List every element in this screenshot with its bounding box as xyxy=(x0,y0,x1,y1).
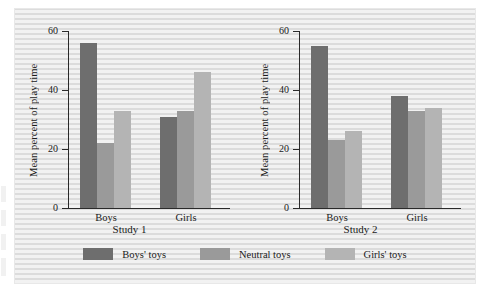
y-tick-60: 60 xyxy=(293,31,299,32)
scan-artifact xyxy=(1,186,6,202)
legend-item-boys-toys: Boys' toys xyxy=(83,248,166,260)
legend-item-girls-toys: Girls' toys xyxy=(325,248,407,260)
bar-group-boys xyxy=(80,31,131,208)
bar-girls-toys xyxy=(194,72,211,208)
y-tick-label-20: 20 xyxy=(279,144,289,154)
bar-girls-toys xyxy=(345,131,362,208)
bar-group-girls xyxy=(391,31,442,208)
y-tick-0: 0 xyxy=(62,208,68,209)
x-tick-label-girls: Girls xyxy=(176,212,197,223)
x-tick-label-boys: Boys xyxy=(95,212,117,223)
y-tick-20: 20 xyxy=(62,149,68,150)
bar-girls-toys xyxy=(425,108,442,208)
bar-boys-toys xyxy=(391,96,408,208)
y-tick-40: 40 xyxy=(293,90,299,91)
chart-legend: Boys' toys Neutral toys Girls' toys xyxy=(14,248,476,260)
legend-label-boys-toys: Boys' toys xyxy=(122,249,166,260)
plot-area-study-1: 0 20 40 60 Boys Girls xyxy=(68,31,228,208)
chart-figure: Mean percent of play time 0 20 40 60 xyxy=(14,8,476,284)
y-axis-label: Mean percent of play time xyxy=(28,32,39,208)
legend-label-girls-toys: Girls' toys xyxy=(364,249,407,260)
scan-artifact xyxy=(1,258,6,276)
y-tick-label-60: 60 xyxy=(48,26,58,36)
chart-panel-study-2: Mean percent of play time 0 20 40 60 xyxy=(245,8,476,240)
chart-panel-study-1: Mean percent of play time 0 20 40 60 xyxy=(14,8,245,240)
y-tick-label-20: 20 xyxy=(48,144,58,154)
bar-group-boys xyxy=(311,31,362,208)
x-axis-line xyxy=(68,208,230,209)
bar-neutral-toys xyxy=(177,111,194,208)
y-tick-label-0: 0 xyxy=(53,203,58,213)
y-tick-40: 40 xyxy=(62,90,68,91)
bar-neutral-toys xyxy=(408,111,425,208)
legend-swatch-boys-toys xyxy=(83,248,113,260)
plot-area-study-2: 0 20 40 60 Boys Girls xyxy=(299,31,459,208)
y-tick-label-0: 0 xyxy=(284,203,289,213)
y-tick-60: 60 xyxy=(62,31,68,32)
panel-title-study-1: Study 1 xyxy=(14,223,245,235)
legend-label-neutral-toys: Neutral toys xyxy=(239,249,291,260)
scan-artifact xyxy=(1,210,6,226)
panel-title-study-2: Study 2 xyxy=(245,223,476,235)
y-tick-label-40: 40 xyxy=(48,85,58,95)
y-tick-20: 20 xyxy=(293,149,299,150)
y-axis-line xyxy=(68,31,69,208)
legend-item-neutral-toys: Neutral toys xyxy=(200,248,291,260)
bar-boys-toys xyxy=(80,43,97,208)
y-tick-label-40: 40 xyxy=(279,85,289,95)
bar-neutral-toys xyxy=(97,143,114,208)
y-axis-label: Mean percent of play time xyxy=(259,32,270,208)
legend-swatch-neutral-toys xyxy=(200,248,230,260)
x-axis-line xyxy=(299,208,461,209)
x-tick-label-girls: Girls xyxy=(407,212,428,223)
y-tick-label-60: 60 xyxy=(279,26,289,36)
bar-boys-toys xyxy=(311,46,328,208)
scan-artifact xyxy=(1,234,6,250)
y-axis-line xyxy=(299,31,300,208)
bar-neutral-toys xyxy=(328,140,345,208)
y-tick-0: 0 xyxy=(293,208,299,209)
bar-group-girls xyxy=(160,31,211,208)
legend-swatch-girls-toys xyxy=(325,248,355,260)
bar-girls-toys xyxy=(114,111,131,208)
x-tick-label-boys: Boys xyxy=(326,212,348,223)
bar-boys-toys xyxy=(160,117,177,208)
